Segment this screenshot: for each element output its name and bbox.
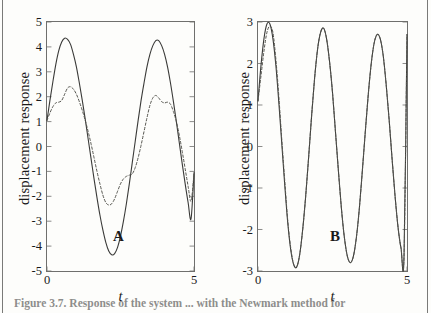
y-tick-label: 1 — [247, 99, 253, 112]
y-tick-label: -1 — [32, 165, 42, 178]
y-tick-label: 2 — [36, 90, 42, 103]
y-tick-label: 5 — [36, 16, 42, 29]
figure-page: displacement response -5-4-3-2-101234505… — [0, 0, 431, 313]
figure-caption: Figure 3.7. Response of the system ... w… — [14, 297, 421, 313]
panel-a-y-axis-label: displacement response — [16, 49, 33, 229]
y-tick-label: -5 — [32, 265, 42, 278]
y-tick-label: 3 — [247, 16, 253, 29]
x-tick-label: 0 — [44, 274, 50, 287]
curve-dashed — [47, 87, 194, 205]
panel-a: displacement response -5-4-3-2-101234505… — [0, 0, 212, 290]
panel-b-tag: B — [330, 228, 340, 245]
y-tick-label: 3 — [36, 66, 42, 79]
curve-solid — [47, 38, 194, 255]
panel-a-tag: A — [113, 228, 124, 245]
y-tick-label: -2 — [243, 223, 253, 236]
panel-b: displacement response -3-2-1012305t B — [212, 0, 427, 290]
x-tick-label: 5 — [404, 274, 410, 287]
x-tick-label: 0 — [255, 274, 261, 287]
y-tick-label: -3 — [243, 265, 253, 278]
x-tick-label: 5 — [191, 274, 197, 287]
y-tick-label: 4 — [36, 41, 42, 54]
y-tick-label: 0 — [36, 140, 42, 153]
y-tick-label: 0 — [247, 140, 253, 153]
y-tick-label: -2 — [32, 190, 42, 203]
figure-panels: displacement response -5-4-3-2-101234505… — [0, 0, 431, 290]
y-tick-label: 1 — [36, 115, 42, 128]
y-tick-label: -4 — [32, 240, 42, 253]
y-tick-label: -3 — [32, 215, 42, 228]
y-tick-label: 2 — [247, 57, 253, 70]
y-tick-label: -1 — [243, 182, 253, 195]
